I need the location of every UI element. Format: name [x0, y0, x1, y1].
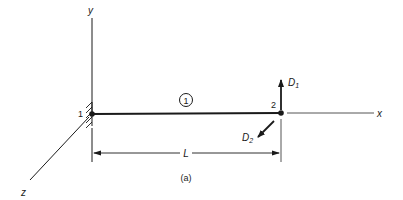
node-1-dot	[89, 111, 95, 117]
d1-label: D1	[288, 77, 299, 89]
element-number: 1	[183, 96, 188, 106]
node-1-label: 1	[78, 109, 83, 119]
beam-element	[92, 113, 281, 114]
z-axis-label: z	[20, 187, 26, 198]
figure-caption: (a)	[181, 173, 192, 183]
beam-diagram: y z x 1 2 1 D1 D2	[0, 0, 403, 200]
x-axis-label: x	[376, 108, 383, 119]
node-2-dot	[278, 110, 284, 116]
length-label: L	[183, 148, 189, 159]
node-2-label: 2	[271, 100, 276, 110]
length-dimension: L	[92, 128, 279, 162]
dof-d2-arrow: D2	[242, 121, 274, 144]
y-axis: y	[87, 5, 94, 114]
element-label: 1	[180, 94, 193, 107]
d2-label: D2	[242, 132, 253, 144]
z-axis: z	[20, 117, 89, 198]
dof-d1-arrow: D1	[281, 77, 299, 110]
x-axis: x	[287, 108, 383, 119]
y-axis-label: y	[87, 5, 94, 16]
